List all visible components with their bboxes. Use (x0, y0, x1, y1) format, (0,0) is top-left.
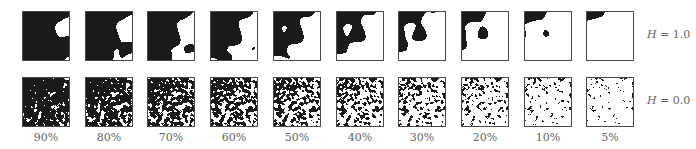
hurst-value: = 0.0 (657, 94, 691, 107)
column-label: 70% (141, 131, 201, 144)
texture-image (399, 12, 445, 60)
texture-image (587, 78, 633, 126)
hurst-value: = 1.0 (657, 28, 691, 41)
texture-panel-h0-70pct (147, 77, 195, 127)
texture-panel-h1-80pct (85, 11, 133, 61)
texture-panel-h1-60pct (210, 11, 258, 61)
texture-panel-h0-10pct (524, 77, 572, 127)
column-label: 40% (330, 131, 390, 144)
column-label: 10% (518, 131, 578, 144)
texture-panel-h0-40pct (336, 77, 384, 127)
texture-image (462, 12, 508, 60)
texture-panel-h0-5pct (586, 77, 634, 127)
texture-image (462, 78, 508, 126)
texture-panel-h1-50pct (273, 11, 321, 61)
texture-panel-h1-20pct (461, 11, 509, 61)
texture-image (525, 12, 571, 60)
row-label-h1: H = 1.0 (647, 28, 690, 41)
texture-panel-h1-5pct (586, 11, 634, 61)
texture-image (211, 78, 257, 126)
texture-image (337, 78, 383, 126)
texture-image (337, 12, 383, 60)
texture-panel-h0-30pct (398, 77, 446, 127)
column-label: 50% (267, 131, 327, 144)
column-label: 5% (580, 131, 640, 144)
hurst-symbol: H (647, 94, 657, 107)
texture-panel-h1-90pct (22, 11, 70, 61)
texture-image (211, 12, 257, 60)
texture-panel-h0-50pct (273, 77, 321, 127)
texture-panel-h0-20pct (461, 77, 509, 127)
column-label: 90% (16, 131, 76, 144)
texture-panel-h0-90pct (22, 77, 70, 127)
texture-image (399, 78, 445, 126)
texture-image (86, 12, 132, 60)
hurst-symbol: H (647, 28, 657, 41)
column-label: 20% (455, 131, 515, 144)
column-label: 30% (392, 131, 452, 144)
texture-image (274, 78, 320, 126)
texture-image (86, 78, 132, 126)
texture-panel-h1-40pct (336, 11, 384, 61)
texture-panel-h1-10pct (524, 11, 572, 61)
texture-image (23, 12, 69, 60)
texture-image (525, 78, 571, 126)
column-label: 60% (204, 131, 264, 144)
texture-image (274, 12, 320, 60)
texture-panel-h0-80pct (85, 77, 133, 127)
column-label: 80% (79, 131, 139, 144)
texture-image (23, 78, 69, 126)
texture-panel-h1-30pct (398, 11, 446, 61)
texture-image (587, 12, 633, 60)
texture-panel-h0-60pct (210, 77, 258, 127)
row-label-h0: H = 0.0 (647, 94, 690, 107)
texture-panel-h1-70pct (147, 11, 195, 61)
percolation-figure: H = 1.090%80%70%60%50%40%30%20%10%5%H = … (0, 0, 696, 149)
texture-image (148, 78, 194, 126)
texture-image (148, 12, 194, 60)
